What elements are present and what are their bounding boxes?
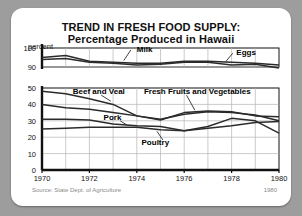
y-tick-30: 30: [20, 117, 36, 126]
x-tick-1980: 1980: [266, 174, 291, 183]
series-label-eggs: Eggs: [236, 48, 256, 57]
y-tick-50: 50: [20, 84, 36, 93]
y-tick-100: 100: [20, 44, 36, 53]
source-note: Source: State Dept. of Agriculture: [32, 187, 121, 193]
chart-card: TREND IN FRESH FOOD SUPPLY: Percentage P…: [11, 8, 291, 206]
series-label-fresh-fruits-and-vegetables: Fresh Fruits and Vegetables: [144, 87, 251, 96]
x-tick-1972: 1972: [76, 174, 102, 183]
series-label-pork: Pork: [104, 113, 122, 122]
y-tick-90: 90: [20, 63, 36, 72]
series-label-beef-and-veal: Beef and Veal: [73, 87, 125, 96]
corner-year-note: 1980: [264, 187, 277, 193]
x-tick-1976: 1976: [171, 174, 197, 183]
series-label-poultry: Poultry: [142, 138, 170, 147]
y-tick-40: 40: [20, 100, 36, 109]
x-tick-1974: 1974: [124, 174, 150, 183]
y-tick-20: 20: [20, 133, 36, 142]
y-tick-10: 10: [20, 150, 36, 159]
series-label-milk: Milk: [137, 45, 153, 54]
x-tick-1978: 1978: [219, 174, 245, 183]
x-tick-1970: 1970: [29, 174, 55, 183]
